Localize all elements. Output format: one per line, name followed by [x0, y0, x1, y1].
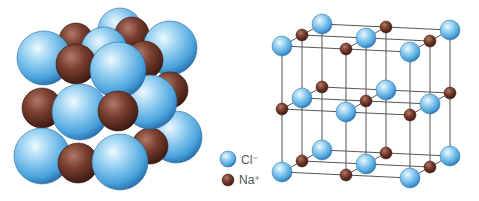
sodium-ion-sphere [98, 91, 138, 131]
sodium-ion-ball [296, 155, 308, 167]
sodium-ion-ball [316, 81, 328, 93]
sodium-ion-ball [404, 109, 416, 121]
sodium-ion-ball [340, 43, 352, 55]
sodium-ion-sphere [56, 44, 96, 84]
chloride-ion-ball [356, 28, 376, 48]
legend-label-chloride: Cl⁻ [241, 153, 258, 167]
chloride-ion-ball [336, 102, 356, 122]
sodium-ion-ball [340, 169, 352, 181]
chloride-ion-ball [440, 20, 460, 40]
chloride-ion-ball [376, 80, 396, 100]
sodium-ion-icon [222, 174, 234, 186]
chloride-ion-ball [292, 88, 312, 108]
legend-item-chloride: Cl⁻ [220, 151, 258, 167]
sodium-ion-ball [380, 21, 392, 33]
chloride-ion-ball [272, 36, 292, 56]
chloride-ion-ball [420, 94, 440, 114]
sodium-ion-ball [424, 35, 436, 47]
chloride-ion-ball [400, 168, 420, 188]
sodium-ion-ball [360, 95, 372, 107]
ball-and-stick-model [272, 14, 460, 188]
legend-item-sodium: Na⁺ [222, 173, 260, 187]
chloride-ion-sphere [92, 134, 148, 190]
chloride-ion-ball [312, 140, 332, 160]
chloride-ion-sphere [90, 42, 146, 98]
legend-label-sodium: Na⁺ [239, 173, 260, 187]
chloride-ion-ball [312, 14, 332, 34]
chloride-ion-ball [272, 162, 292, 182]
chloride-ion-icon [220, 151, 236, 167]
space-filling-model [14, 8, 202, 190]
chloride-ion-ball [400, 42, 420, 62]
sodium-ion-ball [380, 147, 392, 159]
nacl-crystal-figure: Cl⁻ Na⁺ [0, 0, 479, 201]
sodium-ion-ball [444, 87, 456, 99]
chloride-ion-ball [356, 154, 376, 174]
legend: Cl⁻ Na⁺ [220, 151, 260, 187]
sodium-ion-ball [424, 161, 436, 173]
sodium-ion-ball [296, 29, 308, 41]
sodium-ion-ball [276, 103, 288, 115]
chloride-ion-ball [440, 146, 460, 166]
